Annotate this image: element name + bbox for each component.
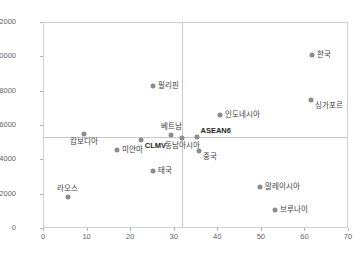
x-axis-tick-mark	[174, 228, 175, 231]
x-axis-tick-label: 70	[336, 233, 360, 241]
x-axis-tick-label: 10	[75, 233, 99, 241]
x-axis-tick-label: 60	[292, 233, 316, 241]
x-axis-tick-label: 50	[249, 233, 273, 241]
data-point	[169, 132, 174, 137]
plot-area: 한국싱가포르필리핀인도네시아베트남ASEAN6동남아시아CLMV캄보디아미얀마중…	[43, 22, 348, 228]
data-point	[150, 169, 155, 174]
y-axis-tick-label: 8000	[0, 87, 16, 95]
y-axis-tick-label: 0	[0, 224, 16, 232]
x-axis-tick-mark	[304, 228, 305, 231]
data-point	[180, 135, 185, 140]
data-point	[272, 207, 277, 212]
data-point-label: 캄보디아	[70, 138, 98, 146]
data-point	[257, 184, 262, 189]
data-point-label: 인도네시아	[225, 111, 260, 119]
x-axis-tick-mark	[130, 228, 131, 231]
y-axis-tick-label: 12000	[0, 18, 16, 26]
x-axis-tick-mark	[348, 228, 349, 231]
data-point-label: 싱가포르	[315, 102, 343, 110]
data-point-label: ASEAN6	[201, 127, 231, 135]
y-axis-tick-label: 4000	[0, 155, 16, 163]
x-axis-tick-label: 30	[162, 233, 186, 241]
x-axis-tick-mark	[261, 228, 262, 231]
vertical-reference-line	[182, 23, 183, 227]
data-point-label: 동남아시아	[165, 142, 200, 150]
data-point	[150, 84, 155, 89]
data-point	[65, 194, 70, 199]
y-axis-tick-label: 10000	[0, 52, 16, 60]
x-axis-tick-label: 20	[118, 233, 142, 241]
data-point-label: 태국	[158, 167, 172, 175]
data-point-label: 중국	[203, 153, 217, 161]
data-point	[309, 52, 314, 57]
x-axis-tick-mark	[43, 228, 44, 231]
data-point-label: 필리핀	[158, 82, 179, 90]
data-point-label: 베트남	[161, 123, 182, 131]
data-point	[82, 131, 87, 136]
data-point	[309, 97, 314, 102]
data-point-label: CLMV	[145, 142, 166, 150]
data-point-label: 한국	[317, 51, 331, 59]
x-axis-tick-label: 40	[205, 233, 229, 241]
data-point	[197, 148, 202, 153]
x-axis-tick-mark	[217, 228, 218, 231]
data-point-label: 말레이시아	[265, 183, 300, 191]
x-axis-tick-mark	[87, 228, 88, 231]
scatter-chart: 020004000600080001000012000 010203040506…	[0, 0, 363, 262]
x-axis-tick-label: 0	[31, 233, 55, 241]
data-point	[217, 113, 222, 118]
data-point	[138, 138, 143, 143]
data-point-label: 라오스	[57, 185, 78, 193]
data-point	[115, 147, 120, 152]
data-point-label: 미얀마	[122, 146, 143, 154]
data-point-label: 브루나이	[280, 206, 308, 214]
y-axis-tick-label: 2000	[0, 190, 16, 198]
y-axis-tick-label: 6000	[0, 121, 16, 129]
data-point	[194, 134, 199, 139]
